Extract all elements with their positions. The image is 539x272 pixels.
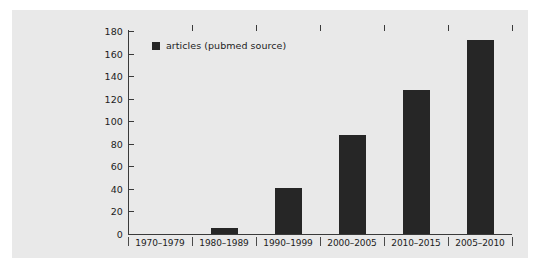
y-axis-tick-label: 100 (105, 116, 123, 127)
legend-label: articles (pubmed source) (166, 40, 286, 51)
plot-area: 180160140120100806040200 1970–19791980–1… (128, 31, 512, 234)
x-axis-category-label: 2000–2005 (320, 238, 384, 248)
x-axis-tick-mark (256, 25, 257, 31)
y-axis-tick-mark (129, 234, 134, 235)
x-axis-label-separator (512, 237, 513, 246)
y-axis-tick-label: 80 (111, 138, 123, 149)
bar (211, 228, 238, 234)
x-axis-tick-mark (320, 25, 321, 31)
y-axis-tick-label: 20 (111, 206, 123, 217)
y-axis-tick-mark (129, 54, 134, 55)
x-axis-label-separator (128, 237, 129, 246)
x-axis-tick-mark (192, 25, 193, 31)
y-axis-line (128, 30, 129, 235)
bar (339, 135, 366, 234)
x-axis-category-label: 1980–1989 (192, 238, 256, 248)
chart-panel: 180160140120100806040200 1970–19791980–1… (12, 10, 528, 258)
x-axis-line (128, 234, 512, 235)
y-axis-tick-label: 40 (111, 183, 123, 194)
x-axis-category-label: 2010–2015 (384, 238, 448, 248)
y-axis-tick-label: 60 (111, 161, 123, 172)
x-axis-category-label: 2005–2010 (448, 238, 512, 248)
y-axis-tick-label: 160 (105, 48, 123, 59)
y-axis-tick-label: 180 (105, 26, 123, 37)
y-axis-tick-mark (129, 121, 134, 122)
y-axis-tick-mark (129, 31, 134, 32)
legend-swatch-icon (152, 42, 160, 50)
bar (467, 40, 494, 234)
x-axis-tick-mark (448, 25, 449, 31)
y-axis-tick-label: 120 (105, 93, 123, 104)
chart-screenshot: 180160140120100806040200 1970–19791980–1… (0, 0, 539, 272)
y-axis-tick-mark (129, 76, 134, 77)
bar (275, 188, 302, 234)
x-axis-category-label: 1990–1999 (256, 238, 320, 248)
y-axis-tick-mark (129, 166, 134, 167)
y-axis-tick-mark (129, 144, 134, 145)
x-axis-tick-mark (384, 25, 385, 31)
y-axis-tick-label: 140 (105, 71, 123, 82)
bar (403, 90, 430, 234)
chart-legend: articles (pubmed source) (152, 40, 286, 51)
y-axis-tick-label: 0 (117, 229, 123, 240)
y-axis-tick-mark (129, 189, 134, 190)
y-axis-tick-mark (129, 211, 134, 212)
x-axis-tick-mark (512, 25, 513, 31)
x-axis-category-label: 1970–1979 (128, 238, 192, 248)
y-axis-tick-mark (129, 99, 134, 100)
